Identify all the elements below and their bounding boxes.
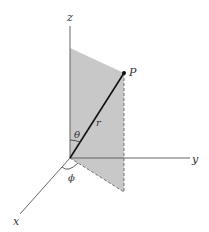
- spherical-coordinates-diagram: z y x P r θ ϕ: [0, 0, 209, 232]
- phi-label: ϕ: [68, 172, 75, 183]
- x-axis-label: x: [13, 215, 20, 228]
- y-axis-label: y: [191, 153, 199, 166]
- point-p-label: P: [128, 66, 137, 79]
- theta-label: θ: [74, 129, 80, 140]
- z-axis-label: z: [66, 11, 73, 24]
- x-axis: [20, 158, 70, 214]
- point-p-marker: [122, 71, 126, 75]
